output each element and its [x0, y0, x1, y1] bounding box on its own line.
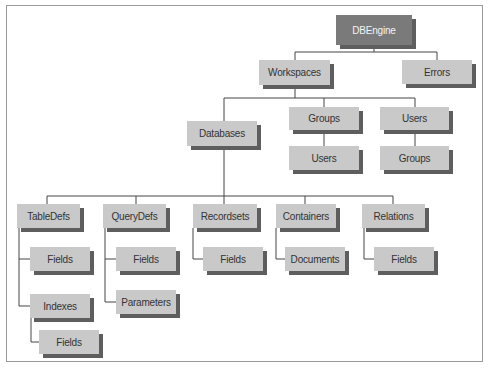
- node-recordsets: Recordsets: [193, 204, 257, 228]
- node-indexes: Indexes: [30, 294, 90, 318]
- node-relations-fields: Fields: [374, 247, 434, 271]
- node-recordsets-fields: Fields: [203, 247, 263, 271]
- node-relations: Relations: [362, 204, 425, 228]
- node-groups-users: Users: [289, 146, 359, 170]
- node-tabledefs: TableDefs: [17, 204, 80, 228]
- node-parameters: Parameters: [116, 290, 176, 314]
- node-users-groups: Groups: [380, 146, 449, 170]
- node-databases: Databases: [187, 121, 257, 146]
- node-tabledefs-fields: Fields: [30, 247, 90, 271]
- node-dbengine: DBEngine: [336, 15, 412, 45]
- node-workspaces: Workspaces: [259, 60, 330, 85]
- node-groups: Groups: [289, 107, 359, 130]
- node-querydefs-fields: Fields: [116, 247, 176, 271]
- node-querydefs: QueryDefs: [103, 204, 166, 228]
- node-indexes-fields: Fields: [39, 330, 99, 354]
- node-containers: Containers: [276, 204, 336, 228]
- node-errors: Errors: [402, 60, 472, 84]
- node-users: Users: [380, 107, 449, 130]
- node-documents: Documents: [285, 247, 345, 271]
